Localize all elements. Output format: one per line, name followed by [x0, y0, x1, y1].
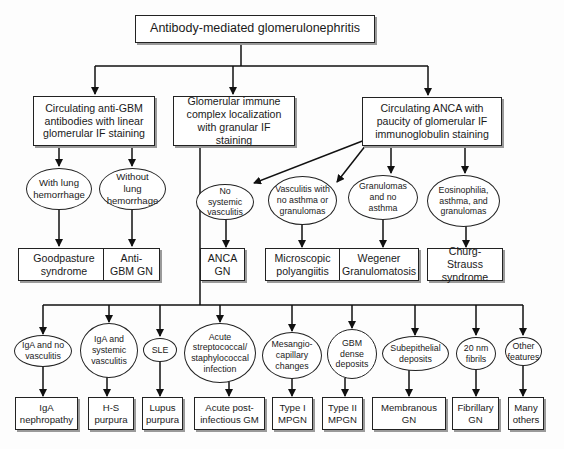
feature-eosinophilia: Eosinophilia, asthma, and granulomas	[427, 175, 500, 227]
category-immune-complex: Glomerular immune complex localization w…	[173, 96, 295, 146]
disease-anti-gbm-gn: Anti-GBM GN	[103, 248, 160, 281]
flowchart: Antibody-mediated glomerulonephritis Cir…	[0, 0, 564, 449]
root-box: Antibody-mediated glomerulonephritis	[135, 15, 375, 43]
disease-iga-nephropathy: IgA nephropathy	[15, 397, 78, 430]
category-anca: Circulating ANCA with paucity of glomeru…	[362, 97, 502, 146]
feature-granulomas-no-asthma: Granulomas and no asthma	[348, 175, 418, 220]
disease-anca-gn: ANCA GN	[200, 248, 245, 281]
disease-membranous-gn: Membranous GN	[372, 397, 446, 430]
disease-many-others: Many others	[508, 397, 544, 430]
connector-lines	[0, 0, 564, 449]
feature-mesangiocapillary: Mesangio-capillary changes	[262, 332, 322, 379]
feature-iga-systemic-vasculitis: IgA and systemic vasculitis	[80, 323, 138, 378]
category-anti-gbm: Circulating anti-GBM antibodies with lin…	[33, 96, 155, 146]
disease-type2-mpgn: Type II MPGN	[322, 397, 363, 430]
feature-acute-infection: Acute streptococcal/ staphylococcal infe…	[184, 323, 256, 383]
disease-lupus-purpura: Lupus purpura	[142, 397, 183, 430]
feature-vasculitis-no-asthma: Vasculitis with no asthma or granulomas	[268, 176, 337, 225]
feature-without-lung-hemorrhage: Without lung hemorrhage	[99, 168, 166, 210]
disease-hs-purpura: H-S purpura	[88, 397, 134, 430]
feature-no-systemic-vasculitis: No systemic vasculitis	[196, 184, 254, 220]
disease-wegener: Wegener Granulomatosis	[339, 248, 419, 281]
feature-iga-no-vasculitis: IgA and no vasculitis	[14, 335, 72, 367]
disease-fibrillary-gn: Fibrillary GN	[452, 397, 499, 430]
disease-acute-postinfectious: Acute post-infectious GM	[194, 397, 265, 430]
feature-with-lung-hemorrhage: With lung hemorrhage	[26, 168, 92, 210]
feature-other: Other features	[505, 337, 542, 366]
disease-type1-mpgn: Type I MPGN	[272, 397, 313, 430]
feature-gbm-dense-deposits: GBM dense deposits	[327, 329, 377, 379]
disease-microscopic-polyangiitis: Microscopic polyangiitis	[265, 248, 340, 281]
disease-goodpasture: Goodpasture syndrome	[18, 248, 110, 281]
feature-sle: SLE	[143, 338, 177, 362]
disease-churg-strauss: Churg-Strauss syndrome	[427, 248, 503, 281]
feature-20nm-fibrils: 20 nm fibrils	[456, 337, 496, 370]
feature-subepithelial-deposits: Subepithelial deposits	[382, 336, 449, 371]
